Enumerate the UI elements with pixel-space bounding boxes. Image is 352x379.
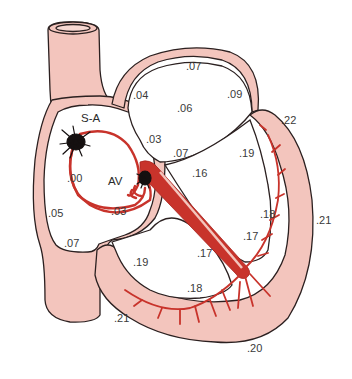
heart-conduction-diagram <box>0 0 352 379</box>
time-label-ra-bottom: .07 <box>64 238 79 249</box>
time-label-ra-lower: .03 <box>111 206 126 217</box>
time-label-septum-upper: .03 <box>146 134 161 145</box>
time-label-rv-septal: .17 <box>197 248 212 259</box>
time-label-la-center: .06 <box>177 103 192 114</box>
time-label-bundle-his: .07 <box>173 148 188 159</box>
av-node-label: AV <box>108 176 123 188</box>
time-label-la-top: .07 <box>186 61 201 72</box>
time-label-lv-endo-lower: .17 <box>243 231 258 242</box>
time-label-la-right: .09 <box>227 89 242 100</box>
time-label-lv-endo-mid: .18 <box>260 209 275 220</box>
time-label-rv-lower: .18 <box>187 283 202 294</box>
time-label-lv-base: .22 <box>281 115 296 126</box>
time-label-lv-epi: .21 <box>316 215 331 226</box>
time-label-la-left: .04 <box>133 90 148 101</box>
time-label-septum-lv: .16 <box>192 168 207 179</box>
time-label-rv-upper: .19 <box>133 257 148 268</box>
time-label-ra-center: .00 <box>67 173 82 184</box>
time-label-apex: .20 <box>247 343 262 354</box>
time-label-rv-epi: .21 <box>114 313 129 324</box>
sa-node-label: S-A <box>81 113 100 125</box>
time-label-lv-endo-upper: .19 <box>239 148 254 159</box>
time-label-ra-left: .05 <box>48 208 63 219</box>
